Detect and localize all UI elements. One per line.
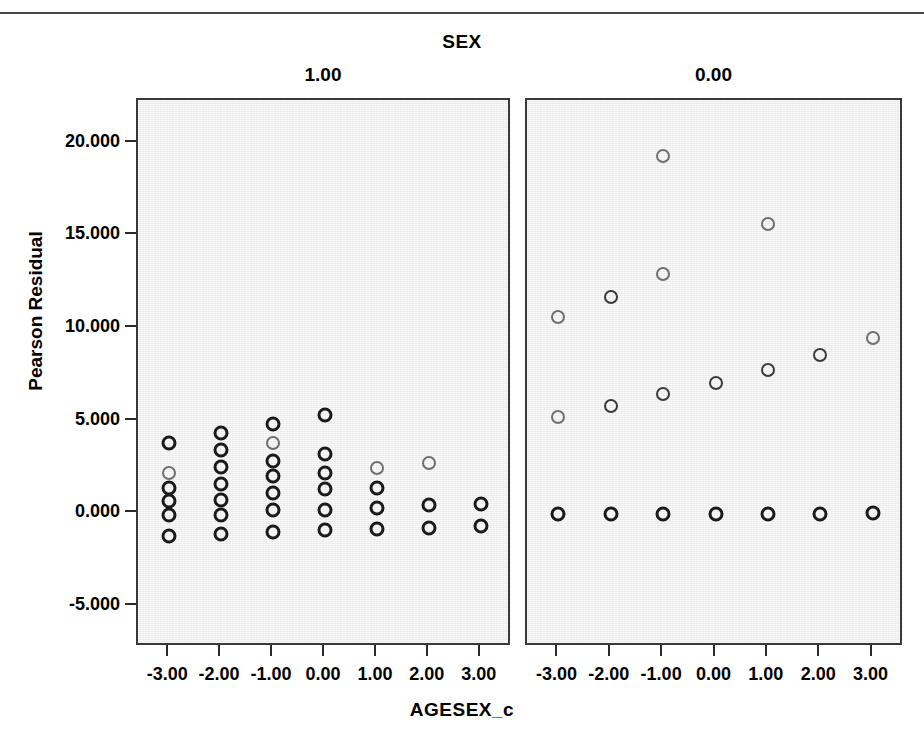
data-point: [551, 507, 566, 522]
data-point: [604, 290, 618, 304]
data-point: [318, 408, 333, 423]
y-tick-mark: [125, 325, 136, 327]
panel-header-right: 0.00: [525, 64, 902, 86]
data-point: [709, 376, 723, 390]
x-tick-mark: [270, 645, 272, 656]
data-point: [656, 267, 670, 281]
data-point: [214, 443, 229, 458]
data-point: [656, 149, 670, 163]
data-point: [266, 486, 281, 501]
x-tick-mark: [478, 645, 480, 656]
y-tick-label: -5.000: [24, 594, 120, 615]
data-point: [369, 481, 384, 496]
data-point: [370, 461, 384, 475]
data-point: [162, 493, 177, 508]
x-tick-mark: [608, 645, 610, 656]
data-point: [266, 502, 281, 517]
data-point: [422, 456, 436, 470]
top-divider: [0, 12, 924, 14]
data-point: [473, 519, 488, 534]
data-point: [266, 453, 281, 468]
x-tick-mark: [555, 645, 557, 656]
data-point: [604, 399, 618, 413]
x-tick-mark: [765, 645, 767, 656]
data-point: [761, 217, 775, 231]
x-tick-mark: [374, 645, 376, 656]
data-point: [214, 460, 229, 475]
panel-header-left: 1.00: [136, 64, 510, 86]
data-point: [162, 528, 177, 543]
data-point: [318, 465, 333, 480]
data-point: [162, 466, 176, 480]
figure-title: SEX: [0, 31, 924, 53]
data-point: [162, 508, 177, 523]
x-tick-mark: [870, 645, 872, 656]
data-point: [551, 410, 565, 424]
data-point: [266, 417, 281, 432]
data-point: [214, 425, 229, 440]
data-point: [708, 507, 723, 522]
y-tick-mark: [125, 418, 136, 420]
data-point: [421, 521, 436, 536]
y-tick-label: 5.000: [24, 408, 120, 429]
x-tick-mark: [322, 645, 324, 656]
data-point: [369, 500, 384, 515]
data-point: [551, 310, 565, 324]
plot-panel-sex-0: [525, 98, 902, 645]
data-point: [421, 498, 436, 513]
plot-panel-sex-1: [136, 98, 510, 645]
x-tick-label: 3.00: [444, 664, 514, 685]
data-point: [813, 348, 827, 362]
y-tick-label: 20.000: [24, 130, 120, 151]
data-point: [866, 331, 880, 345]
y-tick-mark: [125, 232, 136, 234]
data-point: [266, 469, 281, 484]
data-point: [266, 525, 281, 540]
data-point: [162, 436, 177, 451]
y-tick-mark: [125, 140, 136, 142]
scatter-figure: SEX 1.00 0.00 Pearson Residual 20.00015.…: [0, 0, 924, 739]
x-tick-mark: [713, 645, 715, 656]
y-tick-mark: [125, 510, 136, 512]
data-point: [369, 522, 384, 537]
data-point: [214, 508, 229, 523]
data-point: [318, 502, 333, 517]
x-tick-mark: [218, 645, 220, 656]
data-point: [473, 497, 488, 512]
data-point: [760, 507, 775, 522]
data-point: [318, 482, 333, 497]
x-tick-mark: [426, 645, 428, 656]
data-point: [214, 492, 229, 507]
y-tick-label: 10.000: [24, 316, 120, 337]
x-tick-mark: [817, 645, 819, 656]
data-point: [318, 447, 333, 462]
data-point: [214, 526, 229, 541]
x-tick-label: 3.00: [836, 664, 906, 685]
data-point: [865, 505, 880, 520]
x-tick-mark: [166, 645, 168, 656]
x-axis-label: AGESEX_c: [0, 699, 924, 721]
y-tick-label: 15.000: [24, 223, 120, 244]
data-point: [813, 507, 828, 522]
data-point: [603, 507, 618, 522]
y-tick-label: 0.000: [24, 501, 120, 522]
data-point: [266, 436, 280, 450]
data-point: [318, 523, 333, 538]
data-point: [761, 363, 775, 377]
x-tick-mark: [660, 645, 662, 656]
data-point: [214, 476, 229, 491]
data-point: [656, 387, 670, 401]
y-tick-mark: [125, 603, 136, 605]
data-point: [656, 507, 671, 522]
